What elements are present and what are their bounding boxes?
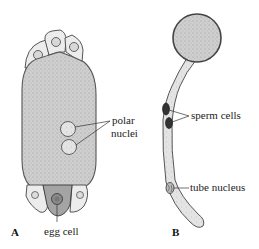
panel-label-b: B — [172, 226, 180, 238]
sperm-cell-2 — [166, 118, 173, 129]
embryo-sac-diagram: polar nuclei egg cell A — [11, 30, 138, 238]
label-egg-cell: egg cell — [44, 225, 79, 237]
label-tube-nucleus: tube nucleus — [190, 181, 245, 193]
central-cell — [22, 52, 96, 186]
label-polar-line1: polar — [112, 114, 135, 126]
pollen-grain — [173, 14, 221, 62]
panel-label-a: A — [11, 226, 19, 238]
pollen-tube — [163, 58, 204, 227]
polar-nucleus-1 — [61, 122, 76, 137]
pollen-tube-diagram: sperm cells tube nucleus B — [163, 14, 246, 238]
diagram-canvas: polar nuclei egg cell A sperm cells tube… — [0, 0, 259, 249]
tube-nucleus — [166, 183, 174, 194]
polar-nucleus-2 — [62, 140, 77, 155]
label-polar-line2: nuclei — [111, 127, 138, 139]
label-sperm-cells: sperm cells — [191, 109, 241, 121]
sperm-cell-1 — [163, 103, 170, 115]
